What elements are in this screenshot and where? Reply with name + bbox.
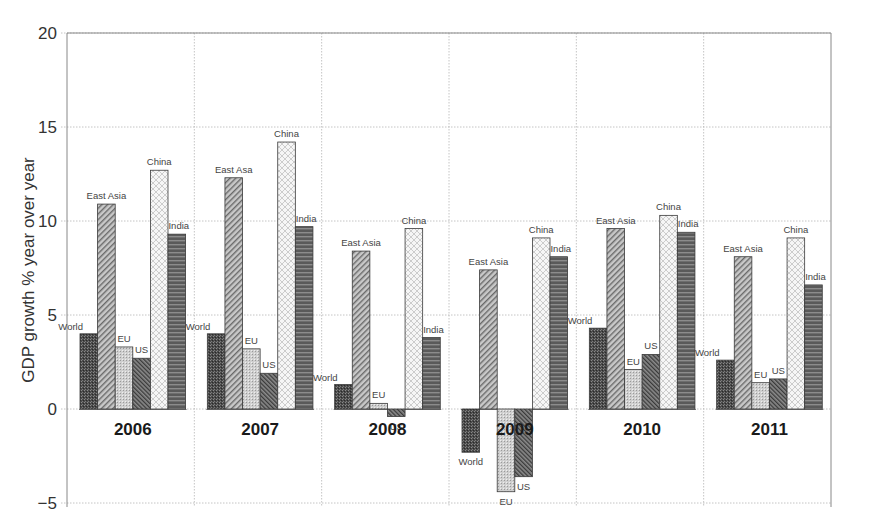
bar-label: India	[296, 213, 317, 224]
bar-world	[462, 409, 480, 452]
bar-label: India	[168, 220, 189, 231]
bar-eu	[370, 403, 388, 409]
bar-china	[532, 238, 550, 409]
bar-world	[589, 328, 607, 409]
bar-world	[335, 385, 353, 409]
bar-east-asia	[225, 178, 243, 409]
bar-label: World	[695, 347, 720, 358]
bar-label: World	[313, 372, 338, 383]
category-label-2006: 2006	[114, 420, 152, 439]
bar-label: China	[401, 215, 427, 226]
bar-label: US	[772, 365, 785, 376]
bar-us	[769, 379, 787, 409]
bar-us	[133, 358, 151, 409]
bar-label: East Asia	[596, 215, 636, 226]
bar-india	[168, 234, 186, 409]
bar-group-2009	[461, 238, 569, 492]
bar-label: EU	[754, 369, 767, 380]
bar-china	[787, 238, 805, 409]
bar-east-asia	[480, 270, 498, 409]
bar-india	[295, 227, 313, 409]
bar-label: US	[517, 481, 530, 492]
bar-label: US	[135, 344, 148, 355]
y-tick-label: 20	[38, 24, 57, 43]
bar-label: East Asia	[341, 237, 381, 248]
category-label-2010: 2010	[623, 420, 661, 439]
bar-group-2008	[334, 229, 442, 417]
bar-eu	[625, 370, 643, 409]
bar-us	[642, 354, 660, 409]
bar-india	[423, 338, 441, 409]
bar-label: China	[529, 224, 555, 235]
bar-label: World	[458, 456, 483, 467]
bar-label: EU	[117, 333, 130, 344]
bar-world	[717, 360, 735, 409]
bar-label: East Asia	[723, 243, 763, 254]
bar-label: US	[262, 359, 275, 370]
y-tick-label: 10	[38, 212, 57, 231]
bar-china	[405, 229, 423, 409]
bar-label: EU	[245, 335, 258, 346]
y-tick-label: −5	[38, 494, 57, 513]
bar-label: India	[550, 243, 571, 254]
bar-label: East Asia	[87, 190, 127, 201]
category-label-2011: 2011	[751, 420, 788, 439]
bar-label: China	[656, 201, 682, 212]
bars	[79, 142, 823, 492]
bar-east-asia	[352, 251, 370, 409]
bar-label: World	[186, 321, 211, 332]
bar-group-2007	[206, 142, 314, 409]
bar-india	[805, 285, 823, 409]
bar-group-2006	[79, 170, 187, 409]
bar-label: China	[783, 224, 809, 235]
bar-china	[150, 170, 168, 409]
category-label-2007: 2007	[241, 420, 279, 439]
bar-china	[660, 215, 678, 409]
category-label-2009: 2009	[496, 420, 534, 439]
bar-label: East Asia	[469, 256, 509, 267]
x-axis-categories: 200620072008200920102011	[114, 420, 788, 439]
bar-india	[550, 257, 568, 409]
bar-label: EU	[499, 496, 512, 507]
bar-eu	[115, 347, 133, 409]
bar-label: US	[644, 340, 657, 351]
gdp-growth-bar-chart: −505101520 WorldEast AsiaEUUSChinaIndiaW…	[0, 0, 887, 531]
bar-group-2010	[588, 215, 696, 409]
bar-label: World	[58, 321, 83, 332]
bar-label: China	[274, 128, 300, 139]
bar-label: India	[805, 271, 826, 282]
y-axis-label: GDP growth % year over year	[19, 157, 38, 383]
bar-east-asia	[734, 257, 752, 409]
y-tick-label: 5	[48, 306, 57, 325]
bar-india	[677, 232, 695, 409]
y-tick-label: 15	[38, 118, 57, 137]
bar-china	[278, 142, 296, 409]
bar-label: India	[678, 218, 699, 229]
category-label-2008: 2008	[369, 420, 407, 439]
bar-us	[260, 373, 278, 409]
bar-world	[207, 334, 225, 409]
bar-east-asia	[607, 229, 625, 409]
bar-label: World	[568, 315, 593, 326]
bar-eu	[752, 383, 770, 409]
y-tick-label: 0	[48, 400, 57, 419]
bar-label: India	[423, 324, 444, 335]
bar-world	[80, 334, 98, 409]
bar-label: EU	[627, 356, 640, 367]
bar-group-2011	[716, 238, 824, 410]
bar-east-asia	[98, 204, 116, 409]
bar-eu	[243, 349, 261, 409]
bar-us	[387, 409, 405, 417]
bar-label: China	[147, 156, 173, 167]
bar-label: East Asa	[215, 164, 253, 175]
bar-label: EU	[372, 389, 385, 400]
